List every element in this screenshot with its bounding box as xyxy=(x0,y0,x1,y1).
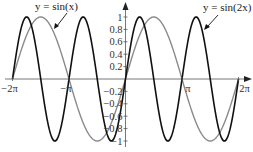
y-tick-label: 0.6 xyxy=(109,36,122,47)
y-tick-label: 1 xyxy=(117,12,122,23)
y-tick-label: −1 xyxy=(111,136,122,147)
y-tick-label: 0.2 xyxy=(109,61,122,72)
y-tick-label: −0.2 xyxy=(103,86,122,97)
y-tick-label: −0.4 xyxy=(103,98,123,109)
x-axis-arrow-icon xyxy=(244,76,252,82)
sine-chart: 10.80.60.40.2−0.2−0.4−0.6−0.8−1−2π−ππ2π … xyxy=(0,0,253,152)
axes xyxy=(5,2,252,147)
x-tick-label: 2π xyxy=(239,83,250,94)
y-tick-label: −0.6 xyxy=(103,111,122,122)
x-tick-label: π xyxy=(185,83,191,94)
arrow-sinx xyxy=(57,13,67,26)
y-tick-label: 0.4 xyxy=(109,49,123,60)
x-tick-label: −π xyxy=(60,83,72,94)
y-axis-arrow-icon xyxy=(123,2,129,10)
annotations: y = sin(x) y = sin(2x) xyxy=(35,0,252,30)
y-tick-label: −0.8 xyxy=(103,123,122,134)
y-tick-label: 0.8 xyxy=(109,24,122,35)
x-tick-label: −2π xyxy=(1,83,18,94)
arrow-sin2x xyxy=(208,15,218,26)
annotation-sinx: y = sin(x) xyxy=(35,0,78,13)
annotation-sin2x: y = sin(2x) xyxy=(203,1,252,14)
